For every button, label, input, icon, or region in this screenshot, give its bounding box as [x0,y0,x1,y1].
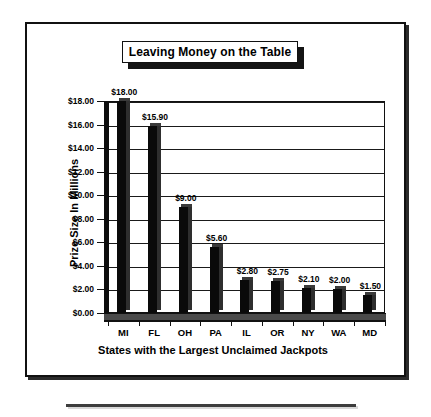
bar-value-label: $2.10 [298,274,319,284]
y-axis-tick-label: $12.00 [42,167,94,177]
bar-pa [210,247,223,313]
x-axis-tick-mark [323,320,324,326]
y-axis-tick-label: $6.00 [42,237,94,247]
bar-mi [117,101,130,313]
bar-ny [302,288,315,313]
bar-top-face [335,286,346,289]
bar-value-label: $1.50 [360,281,381,291]
y-axis-tick-label: $4.00 [42,261,94,271]
bar-value-label: $9.00 [175,193,196,203]
bar-side-face [280,281,284,310]
x-axis-label-pa: PA [209,327,222,338]
bar-chart: Prize Size In Millions States with the L… [0,0,431,417]
x-axis-tick-mark [231,320,232,326]
bar-top-face [150,123,161,126]
bar-value-label: $5.60 [206,233,227,243]
y-axis-tick-mark [97,219,104,220]
y-axis-tick-mark [97,101,104,102]
x-axis-label-md: MD [362,327,377,338]
y-axis-tick-label: $0.00 [42,308,94,318]
bar-value-label: $15.90 [142,112,168,122]
y-axis-tick-mark [97,195,104,196]
y-axis-tick-label: $16.00 [42,120,94,130]
bar-top-face [119,98,130,101]
bar-top-face [212,244,223,247]
y-axis-tick-mark [97,289,104,290]
y-axis-tick-label: $8.00 [42,214,94,224]
y-axis-tick-label: $18.00 [42,96,94,106]
x-axis-tick-mark [200,320,201,326]
x-axis-tick-mark [385,320,386,326]
y-axis-tick-mark [97,172,104,173]
y-axis-tick-mark [97,266,104,267]
y-axis-tick-mark [97,125,104,126]
bar-fl [148,126,161,313]
gridline [108,102,384,103]
x-axis-tick-mark [262,320,263,326]
bar-value-label: $2.80 [237,266,258,276]
x-axis-label-or: OR [270,327,284,338]
x-axis-label-wa: WA [331,327,346,338]
x-axis-label-oh: OH [178,327,192,338]
bar-value-label: $2.75 [267,267,288,277]
x-axis-label-il: IL [242,327,250,338]
bar-side-face [311,288,315,310]
x-axis-tick-mark [139,320,140,326]
y-axis-tick-mark [97,313,104,314]
bar-top-face [242,277,253,280]
bar-il [240,280,253,313]
x-axis-tick-mark [354,320,355,326]
bar-side-face [342,289,346,310]
bar-top-face [365,292,376,295]
y-axis-tick-mark [97,148,104,149]
bar-front-face [117,101,126,313]
bar-front-face [240,280,249,313]
bar-side-face [126,101,130,310]
bar-top-face [181,204,192,207]
y-axis-tick-label: $10.00 [42,190,94,200]
bar-side-face [188,207,192,310]
y-axis-tick-label: $14.00 [42,143,94,153]
bar-top-face [273,278,284,281]
bar-side-face [219,247,223,310]
bar-front-face [179,207,188,313]
y-axis-spine [104,101,109,314]
bar-oh [179,207,192,313]
bar-value-label: $2.00 [329,275,350,285]
bar-side-face [249,280,253,310]
x-axis-label-ny: NY [301,327,314,338]
x-axis-tick-mark [108,320,109,326]
bar-wa [333,289,346,313]
y-axis-tick-label: $2.00 [42,284,94,294]
bar-front-face [333,289,342,313]
y-axis-tick-mark [97,242,104,243]
bar-value-label: $18.00 [111,87,137,97]
bar-top-face [304,285,315,288]
bar-front-face [148,126,157,313]
chart-floor-band [104,313,386,321]
bottom-divider-rule [66,404,356,407]
bar-front-face [363,295,372,313]
bar-side-face [157,126,161,310]
x-axis-title: States with the Largest Unclaimed Jackpo… [48,344,378,356]
x-axis-tick-mark [293,320,294,326]
bar-side-face [372,295,376,310]
x-axis-tick-mark [170,320,171,326]
x-axis-label-mi: MI [118,327,129,338]
x-axis-label-fl: FL [148,327,160,338]
bar-front-face [302,288,311,313]
bar-md [363,295,376,313]
bar-or [271,281,284,313]
bar-front-face [210,247,219,313]
bar-front-face [271,281,280,313]
